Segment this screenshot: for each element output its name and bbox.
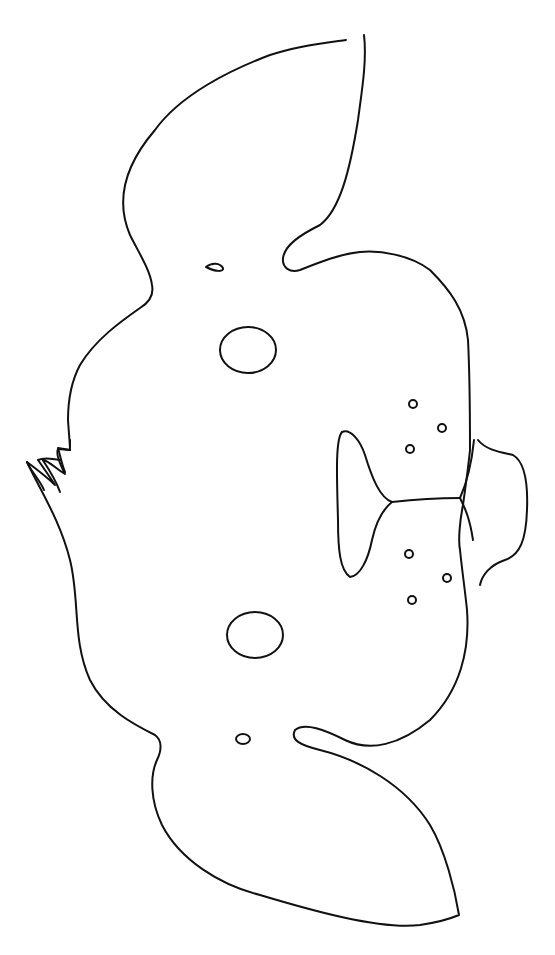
- muzzle-lower-line: [460, 498, 473, 540]
- line-art: [0, 0, 555, 955]
- whisker-dot: [438, 424, 446, 432]
- whisker-dot: [406, 445, 414, 453]
- whisker-dot: [408, 596, 416, 604]
- nose: [337, 431, 392, 577]
- head-outline: [27, 35, 470, 926]
- whisker-dot: [405, 550, 413, 558]
- lower-eye-hole: [227, 612, 283, 658]
- whisker-dot: [409, 400, 417, 408]
- upper-eye-hole: [220, 327, 276, 373]
- lower-small-hole: [236, 734, 250, 744]
- muzzle-center-line: [392, 498, 460, 502]
- tongue: [478, 440, 527, 585]
- whisker-dot: [443, 574, 451, 582]
- dog-mask-drawing: [0, 0, 555, 955]
- upper-small-hole: [206, 264, 223, 271]
- hair-tuft: [42, 440, 70, 492]
